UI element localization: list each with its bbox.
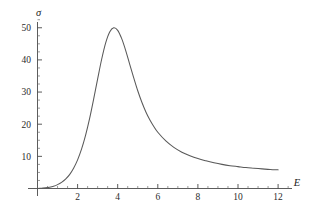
x-axis-label: E [293, 177, 301, 188]
x-tick-label: 10 [233, 192, 243, 202]
x-tick-label: 2 [75, 192, 80, 202]
y-tick-label: 20 [22, 120, 32, 130]
y-axis-label: σ [36, 7, 42, 18]
x-tick-label: 8 [196, 192, 201, 202]
y-tick-label: 30 [22, 87, 32, 97]
y-tick-label: 40 [22, 55, 32, 65]
x-tick-label: 12 [273, 192, 283, 202]
x-tick-label: 6 [155, 192, 160, 202]
y-tick-label: 50 [22, 23, 32, 33]
chart-figure: 24681012 1020304050 E σ [0, 0, 319, 215]
chart-background [0, 0, 319, 215]
x-tick-label: 4 [115, 192, 120, 202]
y-tick-label: 10 [22, 152, 32, 162]
resonance-cross-section-chart: 24681012 1020304050 E σ [0, 0, 319, 215]
